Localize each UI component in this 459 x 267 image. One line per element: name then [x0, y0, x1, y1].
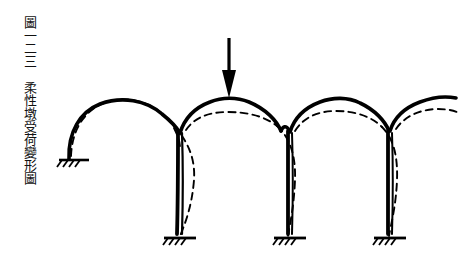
original-shape-group: [69, 97, 456, 234]
figure-page: 圖一二三 柔性墩受荷變形圖: [0, 0, 459, 267]
support-pier-3: [373, 238, 406, 245]
support-pier-2: [273, 238, 306, 245]
support-abutment-left: [57, 160, 89, 167]
deformed-shape-group: [71, 99, 457, 236]
arch-stub-right-solid: [390, 97, 456, 131]
pier-1-solid-edge: [182, 133, 183, 234]
diagram-canvas: [0, 0, 459, 267]
arch-left-solid: [69, 100, 180, 159]
vertical-load-arrow: [222, 38, 236, 98]
arch-right-dashed: [295, 111, 382, 131]
arch-right-solid: [290, 98, 389, 132]
arch-structure-svg: [0, 0, 459, 267]
support-pier-1: [163, 238, 196, 245]
arch-center-solid: [180, 98, 281, 133]
load-arrow-head: [222, 70, 236, 98]
pier-1-solid: [177, 131, 178, 234]
span-1-deflection-dashed: [166, 117, 194, 236]
arch-center-dashed: [186, 112, 277, 130]
